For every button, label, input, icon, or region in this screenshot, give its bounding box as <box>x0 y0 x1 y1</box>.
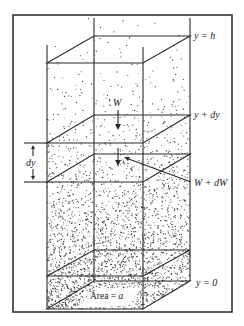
label-y-equals-h: y = h <box>194 31 215 41</box>
label-dy: dy <box>26 158 35 168</box>
label-y-equals-0: y = 0 <box>196 278 217 288</box>
arrow-heads <box>31 124 130 180</box>
pointer-line <box>126 158 191 182</box>
label-w: W <box>113 98 121 108</box>
label-area-symbol: a <box>119 291 124 301</box>
w-plus-dw-arrow-icon <box>115 160 121 166</box>
label-area-prefix: Área = <box>90 291 119 301</box>
prism-lines <box>24 18 191 309</box>
label-y-plus-dy: y + dy <box>194 110 220 120</box>
dy-arrow-up-icon <box>31 145 35 149</box>
figure-frame <box>13 15 232 312</box>
plane-top <box>47 36 190 63</box>
w-arrow-icon <box>115 124 121 130</box>
label-area: Área = a <box>90 292 123 302</box>
label-w-plus-dw: W + dW <box>194 178 227 188</box>
dy-arrow-down-icon <box>31 176 35 180</box>
